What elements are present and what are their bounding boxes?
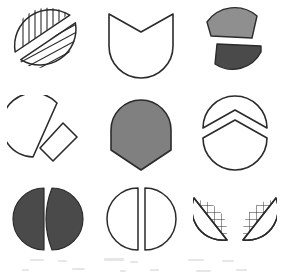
shape-cell-dark-split-circle [0, 180, 94, 258]
chevron-split-circle-icon [195, 94, 275, 174]
shape-cell-white-split-circle [94, 180, 188, 258]
shape-cell-v-notch-circle [94, 0, 188, 88]
shape-cell-two-gray-segments [188, 0, 282, 88]
shape-cell-gray-dome-point [94, 88, 188, 180]
sector-and-slab-icon [7, 95, 87, 173]
figure-plate [0, 0, 282, 276]
shape-cell-chevron-split-circle [188, 88, 282, 180]
gray-dome-point-icon [105, 94, 177, 174]
shape-grid [0, 0, 282, 276]
dark-split-circle-icon [8, 184, 86, 254]
white-half-right [145, 188, 176, 250]
dark-half-left [13, 188, 44, 250]
dark-half-right [46, 188, 83, 250]
segment-lower [215, 44, 261, 69]
shape-cell-sector-and-slab [0, 88, 94, 180]
white-half-left [107, 188, 138, 250]
shape-cell-crosshatched-wings [188, 180, 282, 258]
v-notch-circle-icon [105, 6, 177, 82]
shape-cell-hatched-split-circle [0, 0, 94, 88]
segment-upper [207, 8, 257, 38]
chevron-piece-bottom [203, 120, 267, 170]
white-split-circle-icon [102, 184, 180, 254]
hatched-split-circle-icon [9, 6, 85, 82]
two-gray-segments-icon [195, 6, 275, 82]
crosshatched-wings-icon [193, 184, 277, 254]
